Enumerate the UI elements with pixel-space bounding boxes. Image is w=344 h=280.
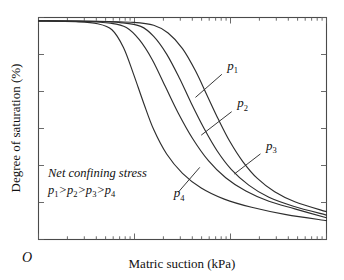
annotation-net-confining-stress: Net confining stress (47, 166, 147, 180)
chart-background (0, 0, 344, 280)
origin-label: O (22, 250, 32, 265)
x-axis-title: Matric suction (kPa) (129, 256, 236, 271)
figure-root: p1p2p3p4 Net confining stress p1>p2>p3>p… (0, 0, 344, 280)
swcc-chart: p1p2p3p4 Net confining stress p1>p2>p3>p… (0, 0, 344, 280)
y-axis-title: Degree of saturation (%) (8, 64, 23, 193)
